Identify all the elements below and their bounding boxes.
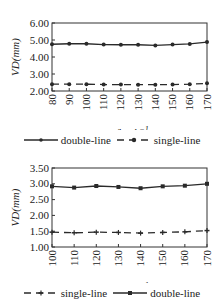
x-tick-label: 160 (183, 94, 195, 111)
y-tick-label: 5.00 (30, 34, 50, 46)
x-tick-label: 100 (46, 250, 58, 267)
y-tick-label: 1.50 (30, 225, 50, 237)
x-tick-label: 150 (166, 94, 178, 111)
x-tick-label: 170 (201, 250, 213, 267)
legend-item-single-line: single-line (117, 134, 200, 146)
solid-line-dot-marker-icon (24, 136, 58, 144)
dashed-line-dot-marker-icon (117, 136, 151, 144)
plot-frame (52, 23, 207, 91)
legend-label: single-line (154, 134, 200, 146)
series-double-line (50, 182, 209, 190)
x-tick-label: 120 (90, 250, 102, 267)
solid-line-square-marker-icon (113, 289, 147, 297)
y-tick-label: 2.00 (30, 209, 50, 221)
series-single-line (50, 228, 210, 236)
y-tick-label: 3.50 (30, 162, 50, 174)
x-tick-label: 90 (63, 94, 75, 106)
y-tick-label: 3.00 (30, 68, 50, 80)
y-tick-label: 4.00 (30, 51, 50, 63)
x-axis-label: v/km.h−1 (110, 281, 148, 283)
x-tick-label: 160 (178, 250, 190, 267)
plot-bottom: 3.503.002.502.001.501.001001101201301401… (0, 155, 224, 283)
x-tick-label: 80 (46, 94, 58, 106)
x-tick-label: 140 (149, 94, 161, 111)
y-tick-label: 6.00 (30, 17, 50, 29)
chart-top: 6.005.004.003.002.0080901001101201301401… (0, 0, 224, 155)
legend-item-double-line: double-line (24, 134, 111, 146)
y-tick-label: 2.50 (30, 193, 50, 205)
legend-item-single-line: single-line (24, 287, 107, 299)
plot-top: 6.005.004.003.002.0080901001101201301401… (0, 0, 224, 130)
series-single-line (50, 81, 209, 86)
legend-top: double-line single-line (0, 134, 224, 146)
chart-bottom: 3.503.002.502.001.501.001001101201301401… (0, 155, 224, 308)
legend-label: single-line (61, 287, 107, 299)
plot-frame (52, 168, 207, 247)
legend-item-double-line: double-line (113, 287, 200, 299)
series-double-line (50, 40, 209, 47)
y-axis-label: VD(mm) (9, 38, 22, 76)
y-tick-label: 3.00 (30, 177, 50, 189)
x-tick-label: 140 (134, 250, 146, 267)
dashed-line-plus-marker-icon (24, 289, 58, 297)
x-axis-label: v/km.h−1 (110, 125, 148, 130)
x-tick-label: 130 (112, 250, 124, 267)
x-tick-label: 150 (156, 250, 168, 267)
y-axis-label: VD(mm) (9, 188, 22, 226)
x-tick-label: 100 (80, 94, 92, 111)
legend-label: double-line (61, 134, 111, 146)
legend-bottom: single-line double-line (0, 287, 224, 299)
x-tick-label: 110 (97, 94, 109, 111)
x-tick-label: 170 (201, 94, 213, 111)
legend-label: double-line (150, 287, 200, 299)
x-tick-label: 130 (132, 94, 144, 111)
x-tick-label: 110 (68, 250, 80, 267)
x-tick-label: 120 (114, 94, 126, 111)
